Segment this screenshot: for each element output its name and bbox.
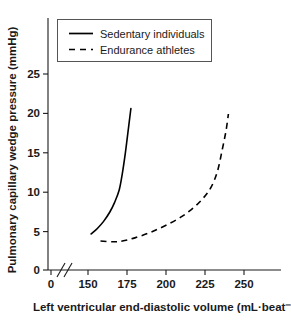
x-axis-ticks [88,270,244,275]
x-axis-origin-tick: 0 [48,270,54,290]
chart-figure: 0 5 10 15 20 25 0 150 175 [0,0,291,324]
y-tick-label: 25 [27,68,40,80]
legend-label-endurance-athletes: Endurance athletes [100,44,195,56]
y-tick-label: 15 [27,147,40,159]
series-line-sedentary-individuals [91,109,131,234]
x-tick-label: 175 [117,278,137,290]
chart-plot-area: 0 5 10 15 20 25 0 150 175 [0,0,291,324]
x-tick-label: 150 [78,278,97,290]
y-tick-label: 10 [27,186,40,198]
x-tick-label: 225 [195,278,215,290]
x-origin-tick-label: 0 [48,278,54,290]
x-tick-label: 200 [156,278,175,290]
y-axis-ticks [43,74,48,270]
x-axis-tick-labels: 150 175 200 225 250 [78,278,253,290]
y-axis-title: Pulmonary capillary wedge pressure (mmHg… [6,26,18,273]
y-tick-label: 5 [34,226,41,238]
series-line-endurance-athletes [100,114,228,242]
y-tick-label: 0 [34,264,40,276]
x-axis-title: Left ventricular end-diastolic volume (m… [33,301,291,313]
x-tick-label: 250 [234,278,253,290]
y-tick-label: 20 [27,107,40,119]
chart-legend: Sedentary individuals Endurance athletes [58,20,212,62]
y-axis-tick-labels: 0 5 10 15 20 25 [27,68,40,276]
legend-label-sedentary-individuals: Sedentary individuals [100,28,205,40]
